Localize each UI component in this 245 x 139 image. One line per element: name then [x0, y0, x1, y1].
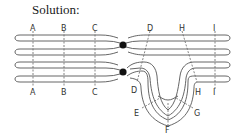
top-centromere [119, 41, 126, 48]
label-f: F [165, 126, 170, 135]
label-top-h: H [179, 24, 185, 33]
top-left-chromatid-2 [15, 47, 120, 55]
label-e: E [134, 109, 139, 118]
label-top-d: D [147, 24, 153, 33]
label-bottom-c: C [92, 88, 98, 97]
label-bottom-b: B [61, 88, 67, 97]
top-labels: A B C D H I [30, 24, 215, 33]
label-bottom-a: A [30, 88, 36, 97]
label-bottom-h: H [195, 88, 201, 97]
label-bottom-d: D [131, 86, 137, 95]
label-g: G [194, 109, 200, 118]
top-right-chromatid-2 [126, 47, 230, 55]
top-right-chromatid-1 [126, 35, 230, 43]
bottom-centromere [119, 68, 126, 75]
label-top-a: A [30, 24, 36, 33]
loop-labels: E F G [134, 109, 200, 135]
label-top-i: I [213, 24, 215, 33]
top-left-chromatid-1 [15, 35, 120, 43]
top-chromosome [15, 35, 230, 55]
bottom-left-chromatid-2 [15, 74, 120, 82]
loop-middle [127, 71, 230, 126]
bottom-left-chromatid-1 [15, 62, 120, 70]
inversion-loop-diagram: A B C D H I A B C D H I E F G [0, 0, 245, 139]
label-bottom-i: I [213, 88, 215, 97]
label-top-c: C [92, 24, 98, 33]
label-top-b: B [61, 24, 67, 33]
